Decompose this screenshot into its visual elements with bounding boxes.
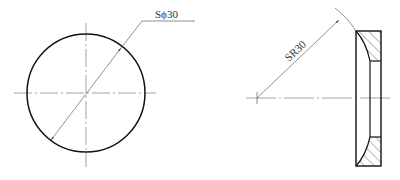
spherical-radius-arc <box>335 8 356 31</box>
radius-dimension-line <box>257 20 339 98</box>
section-view: SR30 <box>246 8 392 166</box>
technical-drawing: Sϕ30 SR30 <box>0 0 400 180</box>
diameter-dimension-label: Sϕ30 <box>155 8 178 20</box>
front-view: Sϕ30 <box>14 8 195 167</box>
diameter-leader <box>121 21 195 48</box>
radius-dimension-label: SR30 <box>282 38 308 64</box>
